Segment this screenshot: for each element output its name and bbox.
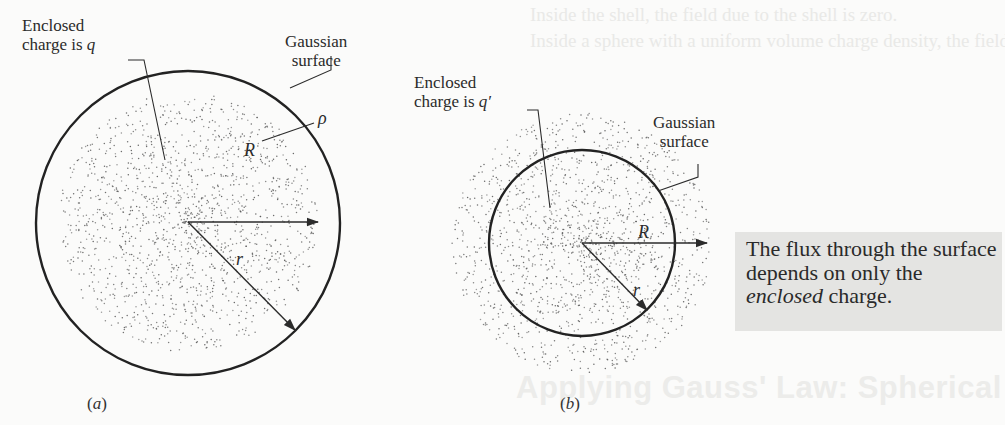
leader-line-rho-a (262, 123, 314, 141)
figure-caption-a: (a) (87, 394, 107, 414)
gaussian-label-line2-b: surface (660, 132, 709, 151)
gaussian-surface-label-a: Gaussian surface (285, 32, 347, 70)
callout-emphasis: enclosed (746, 283, 823, 308)
enclosed-label-line1-a: Enclosed (22, 16, 84, 35)
gaussian-surface-label-b: Gaussian surface (653, 113, 715, 151)
radius-r-arrow-a (188, 222, 295, 330)
enclosed-charge-symbol-a: q (87, 35, 96, 54)
figure-caption-b: (b) (560, 394, 580, 414)
charge-density-symbol: ρ (318, 108, 327, 129)
gaussian-label-line1-a: Gaussian (285, 32, 347, 51)
leader-line-gaussian-b (658, 164, 698, 191)
enclosed-charge-symbol-b: q′ (479, 92, 491, 111)
callout-text: The flux through the surface depends on … (746, 236, 996, 285)
callout-text-end: charge. (823, 283, 892, 308)
radius-R-label-a: R (244, 140, 255, 161)
flux-callout-box: The flux through the surface depends on … (735, 232, 1002, 331)
enclosed-charge-label-b: Enclosed charge is q′ (414, 73, 491, 111)
gaussian-label-line1-b: Gaussian (653, 113, 715, 132)
caption-letter-a: a (93, 394, 102, 413)
gauss-law-diagram (0, 0, 1005, 425)
radius-r-label-a: r (236, 249, 243, 270)
enclosed-label-line2-a: charge is (22, 35, 87, 54)
enclosed-charge-label-a: Enclosed charge is q (22, 16, 95, 54)
enclosed-label-line2-b: charge is (414, 92, 479, 111)
caption-letter-b: b (566, 394, 575, 413)
gaussian-label-line2-a: surface (292, 51, 341, 70)
radius-R-label-b: R (638, 222, 649, 243)
enclosed-label-line1-b: Enclosed (414, 73, 476, 92)
radius-r-label-b: r (633, 280, 640, 301)
